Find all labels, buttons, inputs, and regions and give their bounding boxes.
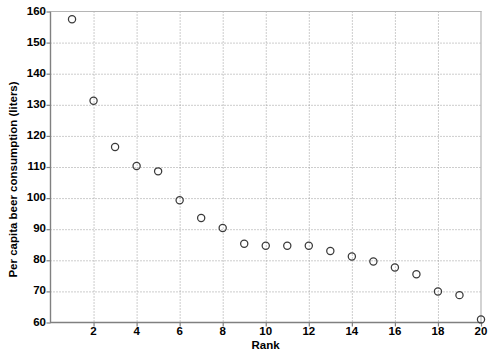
data-point xyxy=(155,168,162,175)
plot-canvas xyxy=(0,0,492,359)
x-tick-label: 8 xyxy=(208,325,238,337)
data-point xyxy=(111,143,118,150)
x-tick-label: 20 xyxy=(466,325,492,337)
y-tick-label: 140 xyxy=(20,67,46,79)
data-point xyxy=(90,97,97,104)
tick-marks xyxy=(47,12,482,327)
data-point xyxy=(284,242,291,249)
y-tick-label: 100 xyxy=(20,191,46,203)
x-tick-label: 14 xyxy=(337,325,367,337)
data-point xyxy=(198,214,205,221)
y-tick-label: 80 xyxy=(20,253,46,265)
x-axis-title: Rank xyxy=(50,339,481,351)
x-tick-label: 10 xyxy=(251,325,281,337)
x-tick-label: 18 xyxy=(423,325,453,337)
x-tick-label: 6 xyxy=(165,325,195,337)
data-point xyxy=(413,271,420,278)
y-tick-label: 60 xyxy=(20,316,46,328)
scatter-chart: Per capita beer consumption (liters) 607… xyxy=(0,0,492,359)
data-points xyxy=(68,16,484,323)
x-tick-label: 2 xyxy=(79,325,109,337)
data-point xyxy=(241,240,248,247)
y-tick-label: 150 xyxy=(20,36,46,48)
data-point xyxy=(348,253,355,260)
data-point xyxy=(68,16,75,23)
data-point xyxy=(456,292,463,299)
data-point xyxy=(370,258,377,265)
y-tick-label: 110 xyxy=(20,160,46,172)
data-point xyxy=(219,224,226,231)
x-tick-label: 4 xyxy=(122,325,152,337)
data-point xyxy=(133,162,140,169)
y-tick-label: 130 xyxy=(20,98,46,110)
data-point xyxy=(327,247,334,254)
y-tick-label: 70 xyxy=(20,284,46,296)
y-tick-label: 120 xyxy=(20,129,46,141)
y-tick-label: 160 xyxy=(20,5,46,17)
y-tick-label: 90 xyxy=(20,222,46,234)
x-tick-label: 16 xyxy=(380,325,410,337)
gridlines xyxy=(51,12,482,323)
x-tick-label: 12 xyxy=(294,325,324,337)
